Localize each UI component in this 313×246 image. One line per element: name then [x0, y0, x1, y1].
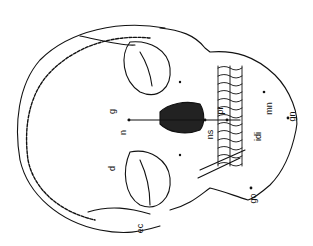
- label-ns: ns: [206, 130, 215, 140]
- skull-diagram: [0, 0, 313, 246]
- label-idi: idi: [254, 132, 263, 141]
- orbit-lower: [125, 151, 170, 207]
- label-go: go: [249, 193, 258, 203]
- label-gn: gn: [288, 111, 297, 121]
- label-n: n: [119, 130, 128, 135]
- label-ec: ec: [136, 224, 145, 234]
- label-g: g: [108, 109, 117, 114]
- nasal-aperture: [160, 102, 204, 132]
- orbit-upper: [124, 42, 170, 95]
- label-d: d: [108, 166, 117, 171]
- cranial-suture: [27, 37, 150, 220]
- label-pr: pr: [216, 106, 225, 114]
- label-mn: mn: [265, 102, 274, 115]
- dentition: [218, 66, 242, 166]
